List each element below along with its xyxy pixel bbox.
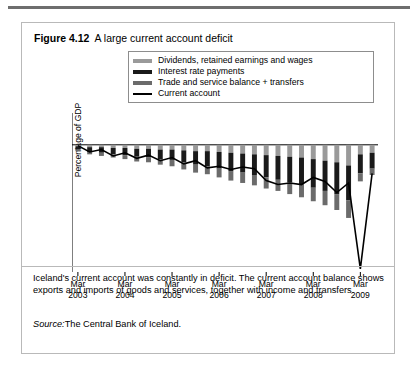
source-text: The Central Bank of Iceland. xyxy=(65,319,181,329)
page-top-rule xyxy=(8,6,410,9)
legend-label-dividends: Dividends, retained earnings and wages xyxy=(158,55,313,66)
legend-item-interest: Interest rate payments xyxy=(133,66,369,77)
legend-swatch-current-account xyxy=(133,93,152,95)
figure-title-text: A large current account deficit xyxy=(94,32,232,44)
figure-box: Figure 4.12A large current account defic… xyxy=(21,22,395,354)
legend-swatch-trade xyxy=(133,81,152,85)
figure-title: Figure 4.12A large current account defic… xyxy=(34,32,233,44)
figure-caption: Iceland's current account was constantly… xyxy=(33,273,385,296)
figure-source: Source:The Central Bank of Iceland. xyxy=(33,319,385,331)
chart-canvas: 200–20–40–60–80 xyxy=(72,107,384,282)
legend-swatch-dividends xyxy=(133,59,152,63)
legend-label-interest: Interest rate payments xyxy=(158,66,244,77)
legend-label-trade: Trade and service balance + transfers xyxy=(158,77,304,88)
chart-legend: Dividends, retained earnings and wages I… xyxy=(128,51,374,103)
legend-item-dividends: Dividends, retained earnings and wages xyxy=(133,55,369,66)
legend-label-current-account: Current account xyxy=(158,88,220,99)
figure-number: Figure 4.12 xyxy=(34,32,89,44)
figure-page: Figure 4.12A large current account defic… xyxy=(0,0,418,369)
figure-divider xyxy=(22,266,394,267)
legend-item-current-account: Current account xyxy=(133,88,369,99)
source-word: Source: xyxy=(33,319,65,329)
legend-item-trade: Trade and service balance + transfers xyxy=(133,77,369,88)
legend-swatch-interest xyxy=(133,70,152,74)
